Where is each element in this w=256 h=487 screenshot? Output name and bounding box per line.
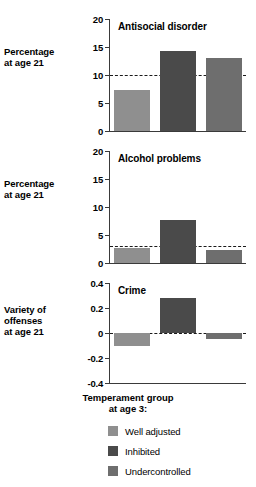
bar-panel-2-inhibited[interactable] [160, 298, 196, 333]
panel-1-tick-mark-3 [105, 179, 110, 180]
legend-item-well-adjusted[interactable]: Well adjusted [108, 421, 256, 441]
panel-1-tick-mark-1 [105, 235, 110, 236]
panel-2-axis-label-line2: offenses [4, 315, 82, 326]
panel-1-tick-mark-2 [105, 207, 110, 208]
legend-caption: Temperament group at age 3: [0, 392, 256, 414]
bar-panel-1-inhibited[interactable] [160, 220, 196, 263]
panel-2-axis-label-line3: at age 21 [4, 326, 82, 337]
bar-panel-1-undercontrolled[interactable] [206, 250, 242, 263]
panel-1-tick-label-2: 10 [93, 202, 103, 213]
panel-1-tick-mark-0 [105, 263, 110, 264]
panel-0-plot-area: Antisocial disorder 05101520 [110, 19, 246, 131]
figure-temperament-outcomes: Percentage at age 21 Antisocial disorder… [0, 0, 256, 487]
panel-crime: Variety of offenses at age 21 Crime -0.4… [0, 278, 256, 386]
panel-0-tick-mark-0 [105, 131, 110, 132]
panel-1-tick-label-4: 20 [93, 146, 103, 157]
panel-0-title: Antisocial disorder [118, 21, 207, 32]
legend: Well adjusted Inhibited Undercontrolled [108, 421, 256, 481]
panel-2-axis-label-line1: Variety of [4, 304, 82, 315]
panel-1-title: Alcohol problems [118, 153, 201, 164]
panel-0-x-axis [109, 131, 246, 132]
legend-item-undercontrolled[interactable]: Undercontrolled [108, 461, 256, 481]
panel-2-tick-mark-1 [105, 358, 110, 359]
legend-caption-line2: at age 3: [0, 403, 256, 414]
panel-2-tick-label-2: 0 [98, 328, 103, 339]
legend-swatch-icon-inhibited [108, 446, 118, 456]
panel-2-title: Crime [118, 285, 146, 296]
panel-2-axis-label: Variety of offenses at age 21 [4, 304, 82, 337]
bar-panel-0-inhibited[interactable] [160, 51, 196, 131]
bar-panel-2-well-adjusted[interactable] [114, 333, 150, 346]
panel-1-tick-mark-4 [105, 151, 110, 152]
panel-0-axis-label-line2: at age 21 [4, 57, 82, 68]
panel-2-tick-mark-0 [105, 383, 110, 384]
panel-2-tick-mark-4 [105, 283, 110, 284]
bar-panel-1-well-adjusted[interactable] [114, 248, 150, 263]
panel-1-plot-area: Alcohol problems 05101520 [110, 151, 246, 263]
legend-swatch-icon-well-adjusted [108, 426, 118, 436]
panel-2-tick-label-4: 0.4 [90, 278, 103, 289]
legend-caption-line1: Temperament group [0, 392, 256, 403]
panel-1-axis-label-line1: Percentage [4, 178, 82, 189]
panel-1-axis-label-line2: at age 21 [4, 189, 82, 200]
panel-2-tick-mark-3 [105, 308, 110, 309]
panel-1-x-axis [109, 263, 246, 264]
panel-1-tick-label-1: 5 [98, 230, 103, 241]
legend-label-well-adjusted: Well adjusted [125, 426, 181, 437]
legend-label-inhibited: Inhibited [125, 446, 160, 457]
bar-panel-0-well-adjusted[interactable] [114, 90, 150, 131]
panel-0-tick-mark-1 [105, 103, 110, 104]
panel-0-tick-label-1: 5 [98, 98, 103, 109]
panel-2-x-axis [109, 383, 246, 384]
legend-swatch-icon-undercontrolled [108, 466, 118, 476]
panel-2-tick-label-1: -0.2 [87, 353, 103, 364]
panel-1-axis-label: Percentage at age 21 [4, 178, 82, 200]
panel-1-tick-label-3: 15 [93, 174, 103, 185]
panel-0-axis-label: Percentage at age 21 [4, 46, 82, 68]
panel-0-axis-label-line1: Percentage [4, 46, 82, 57]
panel-antisocial-disorder: Percentage at age 21 Antisocial disorder… [0, 14, 256, 132]
legend-item-inhibited[interactable]: Inhibited [108, 441, 256, 461]
panel-0-tick-label-2: 10 [93, 70, 103, 81]
panel-2-tick-label-3: 0.2 [90, 303, 103, 314]
bar-panel-0-undercontrolled[interactable] [206, 58, 242, 131]
panel-0-tick-mark-4 [105, 19, 110, 20]
panel-alcohol-problems: Percentage at age 21 Alcohol problems 05… [0, 146, 256, 264]
panel-0-tick-mark-3 [105, 47, 110, 48]
panel-1-tick-label-0: 0 [98, 258, 103, 269]
panel-0-tick-label-0: 0 [98, 126, 103, 137]
panel-2-plot-area: Crime -0.4-0.200.20.4 [110, 283, 246, 383]
panel-0-tick-label-3: 15 [93, 42, 103, 53]
bar-panel-2-undercontrolled[interactable] [206, 333, 242, 339]
panel-2-tick-label-0: -0.4 [87, 378, 103, 389]
legend-label-undercontrolled: Undercontrolled [125, 466, 191, 477]
panel-0-tick-label-4: 20 [93, 14, 103, 25]
